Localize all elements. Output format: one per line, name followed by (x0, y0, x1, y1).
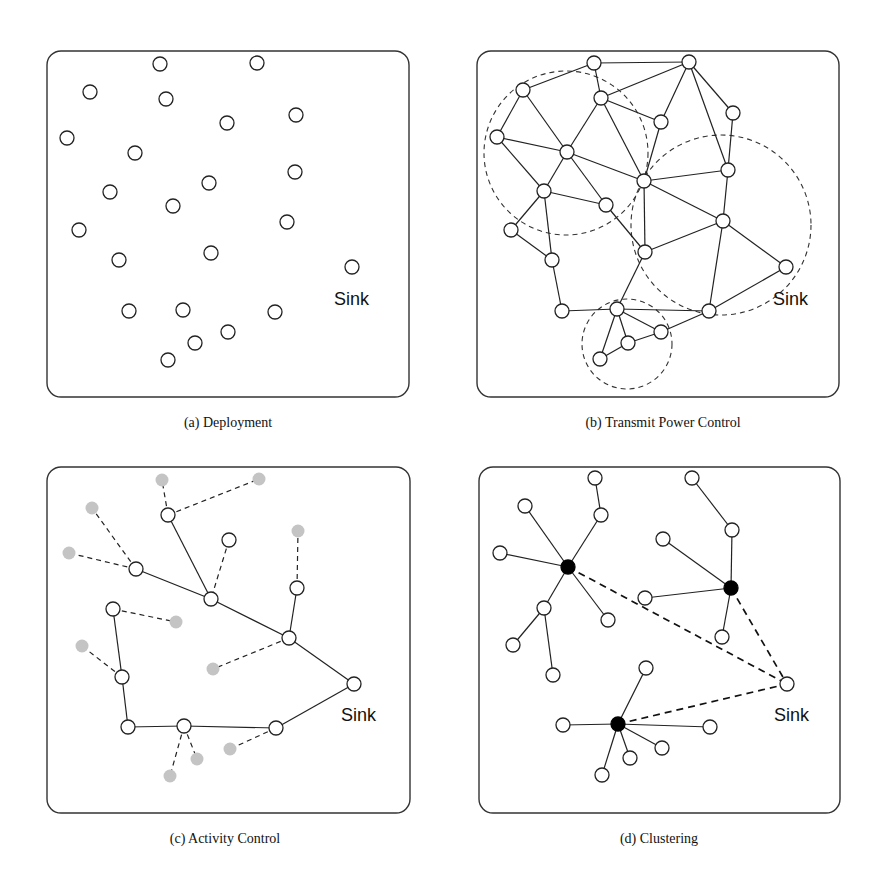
inactive-link-edge (113, 609, 176, 622)
inactive-link-edge (69, 553, 136, 569)
link-edge (731, 530, 732, 588)
sensor-node (204, 592, 218, 606)
link-edge (618, 668, 646, 724)
link-edge (563, 724, 618, 725)
sensor-node (161, 508, 175, 522)
network-topology-figure: Sink(a) Deployment Sink(b) Transmit Powe… (0, 0, 884, 887)
link-edge (723, 221, 786, 267)
sensor-node (593, 352, 607, 366)
sensor-node (546, 668, 560, 682)
sleeping-node (76, 640, 89, 653)
panel-caption: (c) Activity Control (170, 831, 281, 847)
sensor-node (715, 630, 729, 644)
sensor-node (587, 56, 601, 70)
link-edge (661, 62, 689, 122)
link-edge (544, 191, 552, 260)
sleeping-node (191, 753, 204, 766)
link-edge (618, 724, 710, 727)
sensor-node (518, 499, 532, 513)
sensor-node (268, 305, 282, 319)
sensor-node (654, 325, 668, 339)
panel-caption: (b) Transmit Power Control (585, 415, 740, 431)
link-edge (600, 309, 617, 359)
link-edge (606, 205, 645, 252)
sensor-node (656, 532, 670, 546)
sensor-node (288, 165, 302, 179)
sensor-node (122, 304, 136, 318)
sensor-node (638, 245, 652, 259)
link-edge (601, 98, 661, 122)
link-edge (184, 726, 276, 728)
link-edge (168, 515, 211, 599)
panel-caption: (d) Clustering (620, 831, 698, 847)
sensor-node (60, 131, 74, 145)
sensor-node (595, 768, 609, 782)
sensor-node (176, 303, 190, 317)
link-edge (511, 191, 544, 230)
link-edge (525, 506, 568, 567)
panel-deployment: Sink(a) Deployment (47, 51, 409, 431)
sensor-nodes (63, 473, 362, 783)
sensor-node (654, 115, 668, 129)
sensor-nodes (60, 56, 359, 367)
link-edge (663, 539, 731, 588)
link-edge (568, 515, 601, 567)
sleeping-node (292, 525, 305, 538)
sleeping-node (86, 502, 99, 515)
sensor-node (623, 751, 637, 765)
link-edge (617, 252, 645, 309)
sink-label: Sink (774, 705, 810, 725)
panel-frame (47, 467, 410, 813)
link-edge (594, 62, 689, 63)
edges (69, 479, 354, 776)
sink-label: Sink (334, 289, 370, 309)
edges (497, 62, 786, 359)
link-edge (601, 62, 689, 98)
sleeping-node (63, 547, 76, 560)
sensor-node (516, 83, 530, 97)
link-edge (500, 553, 568, 567)
sensor-node (159, 92, 173, 106)
sensor-node (250, 56, 264, 70)
sleeping-node (207, 663, 220, 676)
inactive-link-edge (213, 638, 289, 669)
panel-frame (47, 51, 409, 397)
sleeping-node (156, 474, 169, 487)
link-edge (617, 309, 709, 311)
sensor-node (220, 116, 234, 130)
sensor-node (128, 146, 142, 160)
sensor-node (202, 176, 216, 190)
sensor-node (72, 223, 86, 237)
link-edge (552, 260, 562, 311)
link-edge (709, 221, 723, 311)
sensor-node (222, 533, 236, 547)
sensor-node (685, 471, 699, 485)
sensor-node (280, 215, 294, 229)
link-edge (689, 62, 728, 170)
link-edge (567, 152, 644, 181)
sink-node (345, 260, 359, 274)
sensor-node (103, 185, 117, 199)
sensor-node (121, 720, 135, 734)
link-edge (568, 567, 608, 620)
sensor-node (594, 508, 608, 522)
link-edge (645, 588, 731, 598)
sensor-node (637, 174, 651, 188)
link-edge (523, 63, 594, 90)
sensor-node (588, 471, 602, 485)
cluster-head-node (611, 717, 625, 731)
link-edge (567, 98, 601, 152)
sleeping-node (164, 770, 177, 783)
inactive-link-edge (618, 684, 787, 724)
edges (500, 478, 787, 775)
inactive-link-edge (297, 531, 298, 588)
sensor-node (204, 246, 218, 260)
link-edge (692, 478, 732, 530)
panel-activity-control: Sink(c) Activity Control (47, 467, 410, 847)
inactive-link-edge (168, 479, 259, 515)
sensor-node (221, 325, 235, 339)
link-edge (644, 170, 728, 181)
link-edge (728, 113, 733, 170)
sink-node (347, 677, 361, 691)
sleeping-node (224, 743, 237, 756)
